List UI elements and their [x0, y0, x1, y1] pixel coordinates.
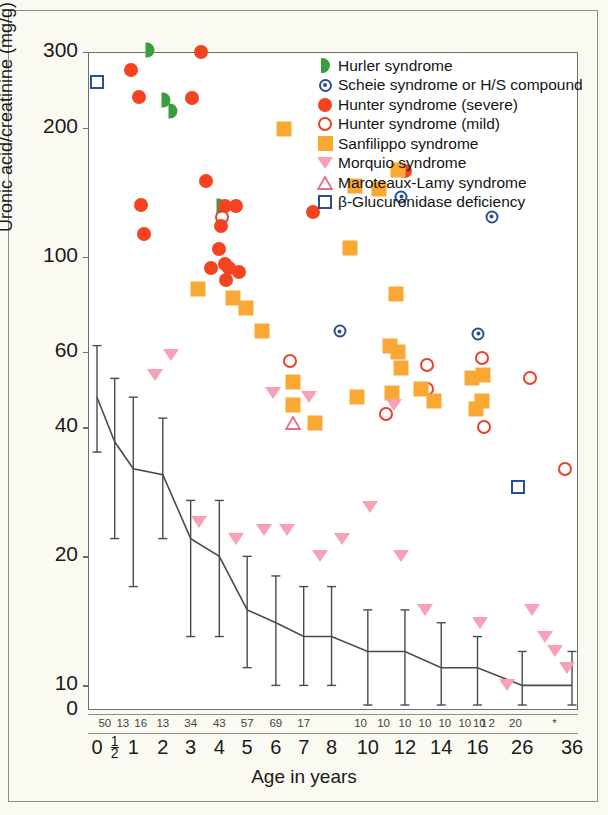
x-tick-label: 2 [157, 736, 168, 759]
y-tick-label: 10 [0, 671, 78, 695]
data-point-hunter_mild [558, 462, 572, 476]
legend-label: Scheie syndrome or H/S compound [338, 76, 583, 94]
legend-label: β-Glucuronidase deficiency [338, 193, 525, 211]
data-point-hunter_severe [134, 198, 148, 212]
sample-size-value: 10 [399, 717, 412, 729]
data-point-hunter_mild [523, 371, 537, 385]
data-point-sanfilippo [307, 415, 322, 430]
data-point-maroteaux [285, 416, 301, 430]
legend: Hurler syndromeScheie syndrome or H/S co… [312, 56, 583, 212]
data-point-morquio [279, 524, 295, 536]
data-point-morquio [312, 550, 328, 562]
sample-size-value: 57 [241, 717, 254, 729]
data-point-hunter_severe [132, 90, 146, 104]
data-point-sanfilippo [285, 398, 300, 413]
sample-size-value: 10 [438, 717, 451, 729]
x-tick-label: 26 [511, 736, 533, 759]
data-point-morquio [393, 550, 409, 562]
open-circle-icon [312, 115, 338, 135]
x-tick-label: 36 [561, 736, 583, 759]
x-tick-label: 16 [466, 736, 488, 759]
sample-size-value: 13 [116, 717, 129, 729]
sample-size-value: 34 [184, 717, 197, 729]
data-point-morquio [334, 533, 350, 545]
data-point-morquio [256, 524, 272, 536]
legend-item-hurler: Hurler syndrome [312, 56, 583, 76]
data-point-hunter_mild [475, 351, 489, 365]
data-point-hunter_mild [477, 420, 491, 434]
legend-label: Morquio syndrome [338, 154, 466, 172]
data-point-hunter_severe [204, 261, 218, 275]
data-point-hunter_severe [185, 91, 199, 105]
data-point-morquio [537, 631, 553, 643]
x-tick-label: 1 [128, 736, 139, 759]
legend-item-hunter_severe: Hunter syndrome (severe) [312, 95, 583, 115]
data-point-morquio [147, 369, 163, 381]
data-point-scheie [472, 327, 485, 340]
data-point-sanfilippo [277, 122, 292, 137]
data-point-hunter_severe [199, 174, 213, 188]
sample-size-value: 20 [509, 717, 522, 729]
data-point-sanfilippo [475, 394, 490, 409]
y-tick-label: 20 [0, 542, 78, 566]
data-point-morquio [362, 501, 378, 513]
data-point-hunter_severe [229, 199, 243, 213]
x-tick-label: 12 [111, 736, 119, 760]
x-tick-label: 4 [214, 736, 225, 759]
x-tick-label: 6 [270, 736, 281, 759]
legend-label: Hurler syndrome [338, 57, 453, 75]
open-square-icon [312, 193, 338, 213]
data-point-morquio [559, 662, 575, 674]
data-point-morquio [301, 391, 317, 403]
data-point-glucuronidase [90, 75, 104, 89]
sample-size-value: 10 [377, 717, 390, 729]
half-disc-right-icon [312, 56, 338, 76]
data-point-sanfilippo [388, 286, 403, 301]
data-point-hunter_severe [219, 273, 233, 287]
sample-size-row-top-rule [88, 714, 578, 715]
data-point-sanfilippo [390, 344, 405, 359]
filled-circle-icon [312, 95, 338, 115]
data-point-sanfilippo [426, 394, 441, 409]
data-point-hunter_mild [215, 210, 229, 224]
legend-label: Sanfilippo syndrome [338, 135, 478, 153]
sample-size-value: 10 [418, 717, 431, 729]
y-tick-label: 0 [0, 696, 78, 720]
x-tick-label: 0 [91, 736, 102, 759]
legend-item-sanfilippo: Sanfilippo syndrome [312, 134, 583, 154]
legend-label: Hunter syndrome (mild) [338, 115, 500, 133]
y-tick-label: 200 [0, 114, 78, 138]
sample-size-value: 10 [354, 717, 367, 729]
sample-size-value: 16 [134, 717, 147, 729]
data-point-hunter_severe [124, 63, 138, 77]
data-point-sanfilippo [254, 324, 269, 339]
data-point-scheie [333, 325, 346, 338]
data-point-hunter_severe [232, 265, 246, 279]
data-point-sanfilippo [475, 367, 490, 382]
y-tick-label: 40 [0, 413, 78, 437]
data-point-hunter_mild [283, 354, 297, 368]
sample-size-value: * [552, 717, 556, 729]
sample-size-value: 50 [98, 717, 111, 729]
data-point-hunter_mild [420, 358, 434, 372]
legend-item-scheie: Scheie syndrome or H/S compound [312, 76, 583, 96]
sample-size-value: 17 [297, 717, 310, 729]
data-point-sanfilippo [342, 240, 357, 255]
sample-size-row-bottom-rule [88, 733, 578, 734]
data-point-hunter_severe [137, 227, 151, 241]
ringed-dot-icon [312, 76, 338, 96]
data-point-morquio [228, 533, 244, 545]
data-point-sanfilippo [190, 282, 205, 297]
legend-item-maroteaux: Maroteaux-Lamy syndrome [312, 173, 583, 193]
x-tick-label: 7 [298, 736, 309, 759]
legend-label: Maroteaux-Lamy syndrome [338, 174, 527, 192]
x-axis-title: Age in years [0, 766, 608, 788]
y-tick-label: 100 [0, 243, 78, 267]
x-tick-label: 3 [185, 736, 196, 759]
data-point-morquio [417, 604, 433, 616]
chart-page: Uronic acid/creatinine (mg/g) 3002001006… [0, 0, 608, 815]
legend-item-morquio: Morquio syndrome [312, 154, 583, 174]
data-point-sanfilippo [285, 374, 300, 389]
sample-size-value: 1 [481, 717, 487, 729]
y-tick-label: 300 [0, 38, 78, 62]
